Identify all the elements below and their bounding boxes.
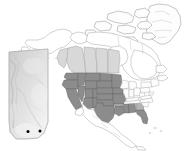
state-kansas xyxy=(97,94,113,100)
alberta-inset xyxy=(9,49,49,139)
state-mississippi xyxy=(123,104,129,113)
state-arkansas xyxy=(114,104,124,106)
state-north-dakota xyxy=(100,73,112,81)
state-montana xyxy=(85,73,100,81)
province-saskatchewan xyxy=(96,48,108,73)
study-site-dot-2 xyxy=(39,130,42,133)
state-new-york xyxy=(141,82,152,88)
study-site-dot-1 xyxy=(27,130,30,133)
figure-container xyxy=(0,0,185,151)
map-canvas xyxy=(0,0,185,151)
state-utah xyxy=(85,89,93,98)
province-manitoba xyxy=(108,49,120,73)
state-oregon xyxy=(62,80,78,89)
state-indiana xyxy=(129,89,134,97)
state-iowa xyxy=(113,88,123,94)
state-nebraska xyxy=(97,88,113,94)
state-washington xyxy=(64,73,78,80)
state-minnesota xyxy=(112,74,122,88)
state-alabama xyxy=(129,103,136,113)
province-alberta xyxy=(84,47,97,73)
state-wyoming xyxy=(85,81,97,89)
state-south-dakota xyxy=(97,81,112,88)
state-maryland-delaware xyxy=(149,92,154,95)
